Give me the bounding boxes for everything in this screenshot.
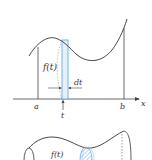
ft-leader-dashed (57, 41, 62, 99)
integral-diagram: f(t) dt a b x t f(t) (0, 0, 152, 160)
t-label: t (61, 111, 65, 120)
t-pointer-arrow-icon (62, 100, 65, 104)
x-axis-arrow-icon (135, 97, 140, 101)
dt-label: dt (74, 78, 83, 87)
b-label: b (120, 102, 125, 111)
a-label: a (34, 102, 39, 111)
dt-arrowhead-left-icon (59, 87, 62, 89)
area-figure: f(t) dt a b x t (13, 19, 146, 120)
solid-figure: f(t) (24, 131, 131, 160)
solid-top-curve (29, 131, 124, 148)
right-end-curve (124, 131, 131, 160)
left-end-ellipse (24, 148, 34, 160)
ft-label: f(t) (42, 62, 57, 72)
x-axis-label: x (141, 99, 146, 108)
function-curve (29, 19, 127, 61)
solid-ft-label: f(t) (50, 150, 63, 159)
strip-rect (62, 40, 68, 99)
